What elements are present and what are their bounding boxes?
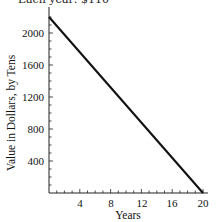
x-axis-title: Years [115, 209, 141, 221]
value-line [49, 17, 203, 193]
x-tick-8: 8 [108, 197, 114, 209]
y-tick-1600: 1600 [22, 59, 45, 71]
x-tick-labels: 4 8 12 16 20 [77, 197, 209, 209]
y-tick-800: 800 [28, 123, 45, 135]
line-chart: 2000 1600 1200 800 400 4 8 12 16 20 Year… [0, 0, 218, 222]
y-axis [49, 7, 53, 193]
x-tick-16: 16 [167, 197, 179, 209]
y-tick-400: 400 [28, 155, 45, 167]
y-axis-title: Value in Dollars, by Tens [5, 54, 18, 171]
x-tick-20: 20 [198, 197, 210, 209]
y-tick-labels: 2000 1600 1200 800 400 [22, 27, 45, 167]
x-axis [49, 189, 208, 193]
y-tick-1200: 1200 [22, 91, 45, 103]
x-tick-12: 12 [137, 197, 148, 209]
y-tick-2000: 2000 [22, 27, 45, 39]
x-tick-4: 4 [77, 197, 83, 209]
